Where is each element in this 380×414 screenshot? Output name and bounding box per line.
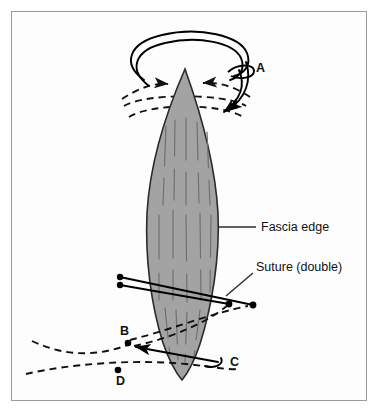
dashed-curve-left-rising [32, 341, 128, 353]
leader-line-suture-double [226, 273, 253, 296]
point-label-d: D [116, 374, 125, 388]
label-fascia-edge: Fascia edge [261, 220, 329, 234]
figure-root: Fascia edge Suture (double) A B C D [0, 0, 380, 414]
fascia-edge-shape [147, 69, 219, 380]
label-suture-double: Suture (double) [256, 260, 342, 274]
point-dot-b [125, 340, 132, 347]
fascia-outline [147, 69, 219, 380]
bottom-dashed-suture-group [26, 305, 248, 374]
suture-endpoint-dot [117, 282, 123, 288]
surgical-diagram-svg: Fascia edge Suture (double) A B C D [0, 0, 380, 414]
dashed-curve-lower-sweep [26, 362, 236, 374]
point-label-a: A [256, 61, 265, 75]
suture-loop-inner [137, 40, 243, 86]
suture-endpoint-dot [117, 274, 123, 280]
suture-endpoint-dot [250, 302, 257, 309]
point-label-c: C [230, 355, 239, 369]
leader-lines-group [219, 227, 256, 296]
point-dot-d [115, 367, 122, 374]
point-label-b: B [120, 324, 129, 338]
